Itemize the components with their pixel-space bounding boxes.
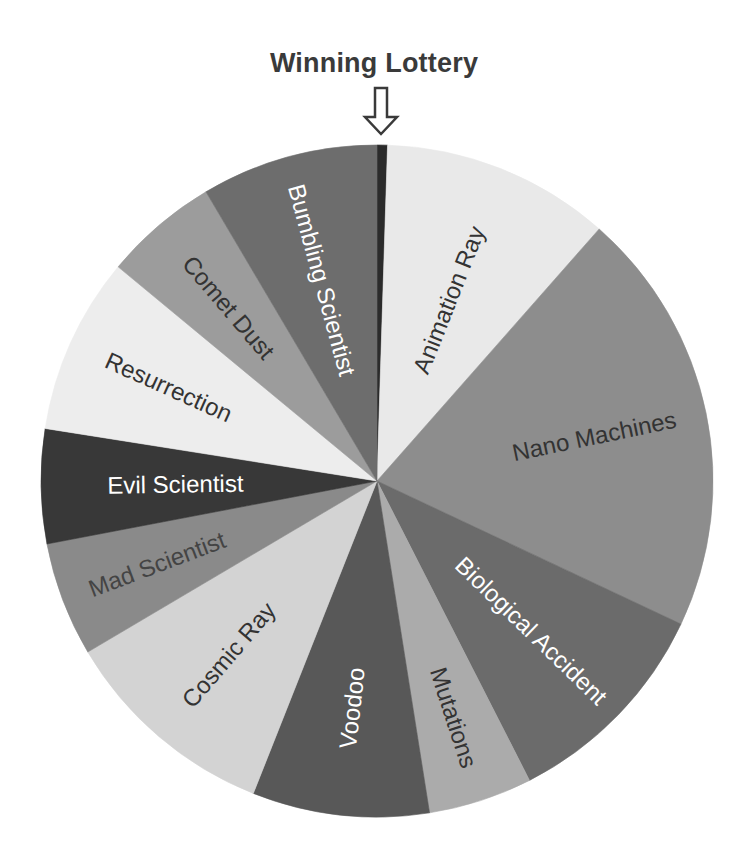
pie-canvas: Animation RayNano MachinesBiological Acc… [0, 0, 748, 862]
slice-label-evil-scientist: Evil Scientist [107, 470, 244, 499]
pie-chart: Winning Lottery Animation RayNano Machin… [0, 0, 748, 862]
down-arrow-icon [365, 88, 397, 134]
